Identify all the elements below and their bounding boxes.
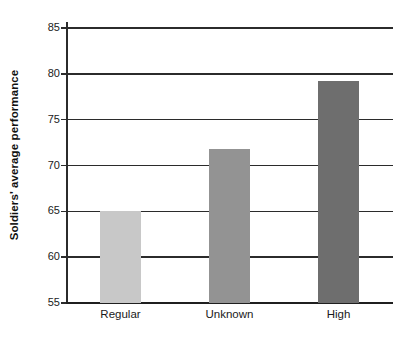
y-axis-title: Soldiers' average performance [0,0,28,310]
y-axis-tick-label: 55 [30,297,60,308]
x-axis-tick-label: Unknown [175,308,284,320]
y-axis-title-text: Soldiers' average performance [8,70,20,241]
bar [100,211,141,303]
bar [209,149,250,303]
x-axis-tick-label: Regular [66,308,175,320]
y-axis-tick-labels: 55606570758085 [26,28,60,303]
y-axis-tick-label: 75 [30,114,60,125]
bars-layer [66,28,393,303]
x-axis-tick-label: High [284,308,393,320]
y-axis-tick-label: 65 [30,205,60,216]
bar [318,81,359,303]
y-axis-tick-label: 85 [30,22,60,33]
y-axis-tick-label: 60 [30,251,60,262]
y-axis-tick-label: 70 [30,160,60,171]
bar-chart: Soldiers' average performance 5560657075… [0,0,409,337]
y-axis-tick-label: 80 [30,68,60,79]
x-axis-tick-labels: RegularUnknownHigh [66,306,393,330]
